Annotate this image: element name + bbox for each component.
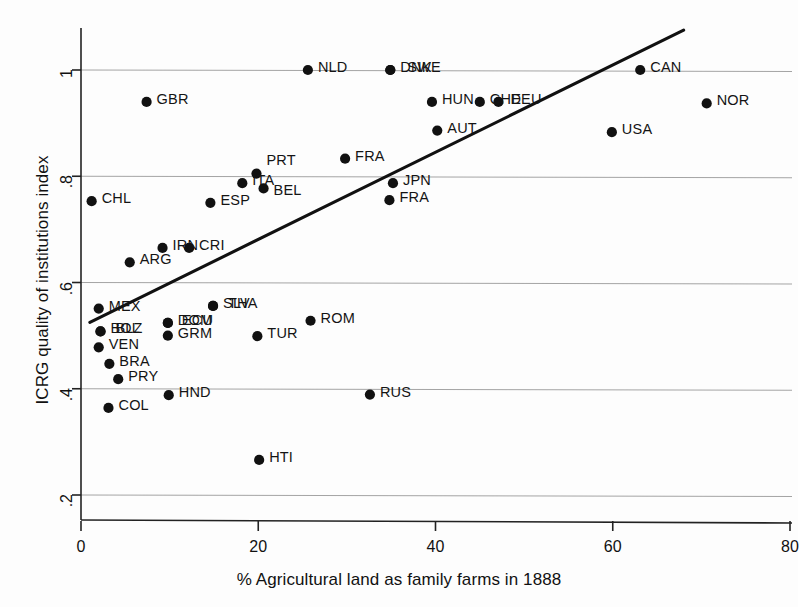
gridline-y-.8 bbox=[81, 176, 792, 178]
data-point-rom bbox=[305, 316, 315, 326]
point-label-bel: BEL bbox=[274, 182, 302, 198]
y-tick-label-1: 1 bbox=[58, 69, 76, 109]
data-point-hun bbox=[427, 97, 437, 107]
point-label-tur: TUR bbox=[267, 325, 297, 341]
point-label-bra: BRA bbox=[119, 353, 149, 369]
data-point-tur bbox=[252, 331, 262, 341]
gridline-y-.6 bbox=[81, 283, 792, 285]
point-label-esp: ESP bbox=[220, 192, 250, 208]
data-point-arg bbox=[125, 257, 135, 267]
y-tick-label-.2: .2 bbox=[58, 494, 76, 534]
data-point-chl bbox=[87, 196, 97, 206]
data-point-mex bbox=[94, 303, 104, 313]
point-label-ita: ITA bbox=[252, 172, 274, 188]
x-axis-spine bbox=[81, 520, 792, 523]
data-point-ven bbox=[94, 342, 104, 352]
data-point-bra bbox=[104, 359, 114, 369]
point-label-can: CAN bbox=[650, 59, 681, 75]
point-label-gbr: GBR bbox=[157, 91, 189, 107]
x-tick-label-20: 20 bbox=[228, 538, 288, 556]
point-label-aut: AUT bbox=[447, 120, 477, 136]
point-label-jpn: JPN bbox=[403, 172, 431, 188]
point-label-nor: NOR bbox=[717, 92, 750, 108]
data-point-fra bbox=[384, 195, 394, 205]
data-markers-group bbox=[87, 65, 712, 465]
point-label-grm: GRM bbox=[178, 325, 212, 341]
data-point-gbr bbox=[141, 97, 151, 107]
point-label-col: COL bbox=[118, 397, 148, 413]
y-tick-label-.4: .4 bbox=[58, 388, 76, 428]
data-point-jpn bbox=[388, 178, 398, 188]
point-label-hnd: HND bbox=[179, 384, 211, 400]
data-point-usa bbox=[607, 127, 617, 137]
data-point-esp bbox=[205, 198, 215, 208]
point-label-nld: NLD bbox=[318, 59, 348, 75]
point-label-fra: FRA bbox=[355, 148, 385, 164]
y-axis-title: ICRG quality of institutions index bbox=[33, 30, 53, 530]
gridline-y-.2 bbox=[81, 495, 792, 497]
y-tick-label-.6: .6 bbox=[58, 282, 76, 322]
x-tick-label-0: 0 bbox=[51, 538, 111, 556]
data-point-swe bbox=[385, 65, 395, 75]
point-label-cri: CRI bbox=[199, 237, 225, 253]
data-point-ecu bbox=[163, 318, 173, 328]
data-point-tha bbox=[208, 301, 218, 311]
point-label-mex: MEX bbox=[109, 298, 141, 314]
data-point-pry bbox=[113, 374, 123, 384]
point-label-pry: PRY bbox=[128, 368, 158, 384]
data-point-blz bbox=[95, 326, 105, 336]
data-point-che bbox=[475, 97, 485, 107]
point-label-prt: PRT bbox=[266, 152, 295, 168]
point-label-irn: IRN bbox=[173, 237, 199, 253]
point-label-hti: HTI bbox=[269, 449, 293, 465]
point-label-swe: SWE bbox=[407, 59, 441, 75]
data-point-rus bbox=[365, 389, 375, 399]
x-tick-label-80: 80 bbox=[760, 538, 803, 556]
point-label-deu: DEU bbox=[510, 91, 541, 107]
x-tick-label-40: 40 bbox=[406, 538, 466, 556]
x-tick-label-60: 60 bbox=[583, 538, 643, 556]
point-label-tha: THA bbox=[228, 295, 258, 311]
point-label-arg: ARG bbox=[140, 251, 172, 267]
data-point-fra bbox=[340, 154, 350, 164]
data-point-nor bbox=[702, 98, 712, 108]
data-point-grm bbox=[163, 331, 173, 341]
data-point-aut bbox=[432, 125, 442, 135]
y-tick-label-.8: .8 bbox=[58, 175, 76, 215]
point-label-ven: VEN bbox=[109, 336, 139, 352]
point-label-chl: CHL bbox=[102, 190, 132, 206]
data-point-can bbox=[635, 65, 645, 75]
x-axis-title: % Agricultural land as family farms in 1… bbox=[0, 570, 798, 590]
data-point-nld bbox=[303, 65, 313, 75]
point-label-blz: BLZ bbox=[115, 320, 142, 336]
data-point-col bbox=[103, 403, 113, 413]
point-label-rus: RUS bbox=[380, 384, 411, 400]
point-label-rom: ROM bbox=[321, 310, 355, 326]
data-point-hti bbox=[254, 455, 264, 465]
point-label-usa: USA bbox=[622, 121, 652, 137]
data-point-hnd bbox=[164, 390, 174, 400]
point-label-fra: FRA bbox=[399, 189, 429, 205]
point-label-hun: HUN bbox=[442, 91, 474, 107]
data-point-ita bbox=[237, 178, 247, 188]
